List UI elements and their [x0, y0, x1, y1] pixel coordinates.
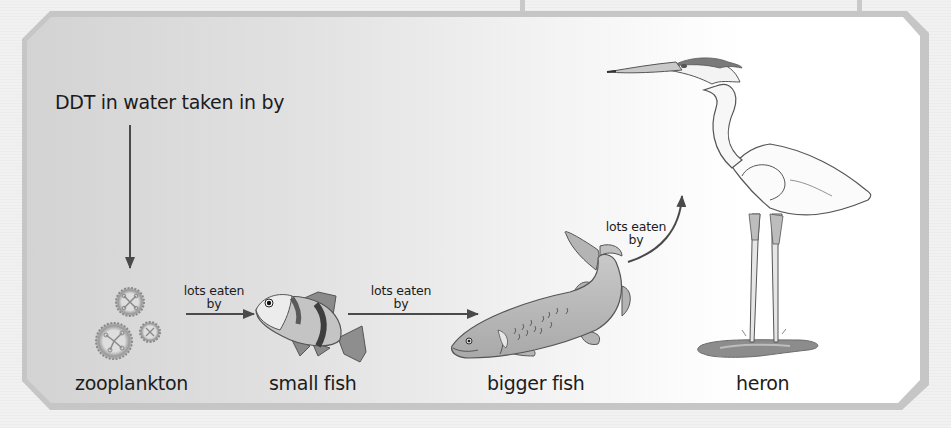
small-fish-icon [256, 292, 366, 362]
zooplankton-icon [96, 288, 160, 359]
heron-icon [607, 58, 871, 357]
edge-label-line2: by [370, 297, 432, 310]
edge-label-small-fish-bigger-fish: lots eaten by [370, 284, 432, 310]
node-label-bigger-fish: bigger fish [487, 372, 585, 394]
node-label-heron: heron [736, 372, 789, 394]
food-chain-artwork [0, 0, 951, 428]
edge-label-zooplankton-small-fish: lots eaten by [183, 284, 245, 310]
edge-label-bigger-fish-heron: lots eaten by [605, 220, 667, 246]
bigger-fish-icon [452, 232, 631, 358]
diagram-title: DDT in water taken in by [55, 91, 284, 113]
edge-label-line2: by [605, 233, 667, 246]
edge-label-line2: by [183, 297, 245, 310]
node-label-zooplankton: zooplankton [75, 372, 188, 394]
node-label-small-fish: small fish [269, 372, 357, 394]
